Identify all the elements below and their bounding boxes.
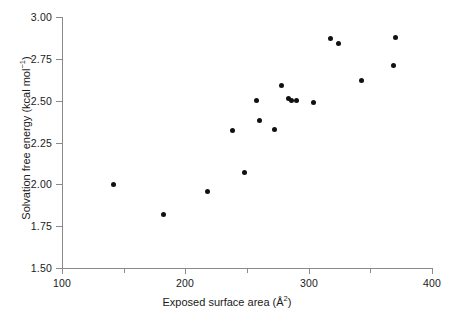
x-tick-mark-minor: [370, 268, 371, 273]
data-point: [311, 100, 316, 105]
x-tick-label: 100: [42, 278, 82, 289]
data-point: [336, 41, 341, 46]
x-tick-mark: [309, 268, 310, 274]
data-point: [279, 83, 284, 88]
data-point: [391, 63, 396, 68]
data-point: [205, 189, 210, 194]
x-tick-label: 200: [165, 278, 205, 289]
data-point: [230, 128, 235, 133]
x-tick-label: 300: [289, 278, 329, 289]
x-tick-mark: [62, 268, 63, 274]
y-axis-title-text: Solvation free energy (kcal mol: [20, 69, 32, 220]
data-point: [254, 98, 259, 103]
data-point: [328, 36, 333, 41]
data-point: [272, 127, 277, 132]
data-point: [393, 35, 398, 40]
data-point: [111, 182, 116, 187]
x-tick-label: 400: [412, 278, 452, 289]
y-axis-title-sup: −1: [18, 60, 27, 69]
y-axis-title: Solvation free energy (kcal mol−1): [20, 8, 32, 268]
data-point: [242, 170, 247, 175]
data-point: [257, 118, 262, 123]
x-tick-mark: [185, 268, 186, 274]
x-tick-mark-minor: [124, 268, 125, 273]
y-axis-title-tail: ): [20, 56, 32, 60]
data-point: [161, 212, 166, 217]
scatter-plot-figure: 1.501.752.002.252.502.753.00100200300400…: [0, 0, 454, 321]
x-axis-title-tail: ): [288, 296, 292, 308]
plot-data-area: [62, 17, 432, 268]
x-tick-mark-minor: [247, 268, 248, 273]
x-axis-title-text: Exposed surface area (Å: [163, 296, 284, 308]
data-point: [359, 78, 364, 83]
x-tick-mark: [432, 268, 433, 274]
x-axis-title: Exposed surface area (Å2): [0, 296, 454, 308]
data-point: [294, 98, 299, 103]
